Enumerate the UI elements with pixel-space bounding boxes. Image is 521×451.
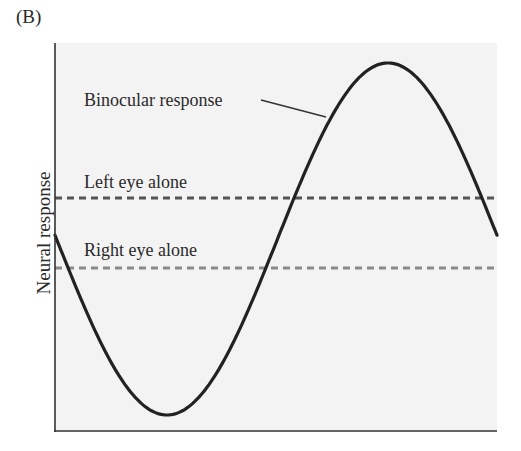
right-eye-label: Right eye alone [84, 240, 197, 260]
left-eye-label: Left eye alone [84, 172, 187, 192]
chart: Binocular response Left eye alone Right … [0, 0, 521, 451]
binocular-label: Binocular response [84, 90, 222, 110]
